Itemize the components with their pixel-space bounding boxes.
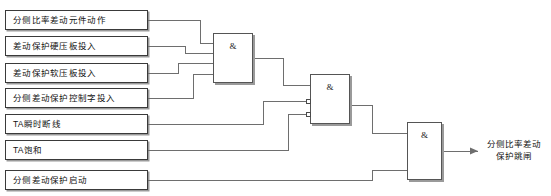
and-gate-1-symbol: & xyxy=(214,41,252,51)
and-gate-3: & xyxy=(407,122,442,180)
invert-bubble-and2-input2 xyxy=(306,99,311,104)
and-gate-3-symbol: & xyxy=(408,130,441,140)
wire-in2-and1 xyxy=(148,46,213,53)
and-gate-2: & xyxy=(310,74,350,124)
output-label-line1: 分侧比率差动 xyxy=(480,138,548,150)
invert-bubble-and2-input3 xyxy=(306,112,311,117)
wire-layer xyxy=(0,0,551,196)
wire-in4-and1 xyxy=(148,74,213,98)
wire-in3-and1 xyxy=(148,63,213,73)
logic-diagram-canvas: 分侧比率差动元件动作 差动保护硬压板投入 差动保护软压板投入 分侧差动保护控制字… xyxy=(0,0,551,196)
wire-and1-and2 xyxy=(253,58,310,85)
and-gate-1: & xyxy=(213,33,253,83)
wire-in5-and2 xyxy=(148,101,307,124)
output-label: 分侧比率差动 保护跳闸 xyxy=(480,138,548,163)
and-gate-2-symbol: & xyxy=(311,82,349,92)
wire-in7-and3 xyxy=(148,170,407,180)
output-arrowhead xyxy=(470,148,478,155)
wire-in1-and1 xyxy=(148,20,213,43)
wire-in6-and2 xyxy=(148,114,307,150)
wire-and2-and3 xyxy=(350,105,407,133)
output-label-line2: 保护跳闸 xyxy=(480,150,548,162)
